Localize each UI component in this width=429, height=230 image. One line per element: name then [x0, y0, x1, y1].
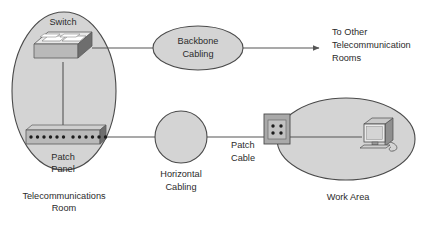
horizontal-cabling-label-line1: Horizontal [160, 169, 201, 179]
to-other-rooms-label-line3: Rooms [332, 53, 362, 63]
patch-panel-label-line2: Panel [51, 164, 75, 174]
network-cabling-diagram: Switch Patch Panel Telecommunications Ro… [0, 0, 429, 230]
telecom-room-label-line2: Room [52, 203, 77, 213]
switch-label: Switch [49, 17, 76, 27]
work-area-ellipse [277, 98, 415, 180]
patch-cable-label-line2: Cable [231, 153, 255, 163]
work-area-label: Work Area [327, 192, 371, 202]
patch-panel-label-line1: Patch [51, 152, 75, 162]
wall-outlet-icon [264, 114, 290, 144]
backbone-cabling-ellipse [153, 26, 243, 70]
horizontal-cabling-label-line2: Cabling [165, 182, 196, 192]
patch-panel-icon [26, 125, 107, 144]
diagram-canvas: Switch Patch Panel Telecommunications Ro… [0, 0, 429, 230]
horizontal-cabling-circle [155, 111, 207, 163]
to-other-rooms-label-line1: To Other [332, 27, 367, 37]
patch-cable-label-line1: Patch [231, 140, 255, 150]
to-other-rooms-label-line2: Telecommunication [332, 40, 411, 50]
telecom-room-label-line1: Telecommunications [22, 191, 106, 201]
backbone-cabling-label-line1: Backbone [178, 36, 219, 46]
backbone-cabling-label-line2: Cabling [182, 49, 213, 59]
